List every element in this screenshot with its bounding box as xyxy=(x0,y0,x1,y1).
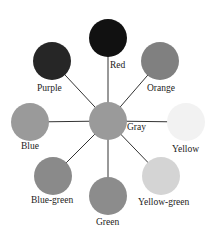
circle-yellow xyxy=(167,103,205,141)
circle-green xyxy=(89,177,127,215)
circle-gray-center xyxy=(89,102,127,140)
circle-orange xyxy=(141,42,179,80)
label-blue: Blue xyxy=(21,142,39,152)
circle-yellow-green xyxy=(142,157,180,195)
circle-blue-green xyxy=(34,157,72,195)
circle-blue xyxy=(11,103,49,141)
label-gray: Gray xyxy=(127,123,146,133)
label-yellow-green: Yellow-green xyxy=(138,198,189,208)
label-orange: Orange xyxy=(147,84,175,94)
label-blue-green: Blue-green xyxy=(31,196,73,206)
label-green: Green xyxy=(96,218,119,228)
color-wheel-diagram: Red Orange Yellow Yellow-green Green Blu… xyxy=(0,0,213,235)
label-red: Red xyxy=(110,61,125,71)
label-yellow: Yellow xyxy=(172,145,199,155)
circle-red xyxy=(89,19,127,57)
circle-purple xyxy=(33,42,71,80)
label-purple: Purple xyxy=(37,84,62,94)
